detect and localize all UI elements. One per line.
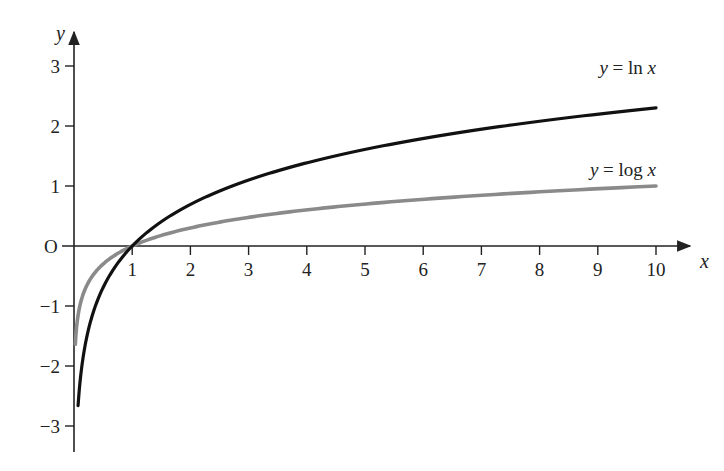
y-tick-label: −2 bbox=[40, 356, 60, 377]
x-tick-label: 3 bbox=[244, 259, 254, 280]
curve-ln-x bbox=[78, 108, 656, 406]
y-axis-label: y bbox=[54, 22, 65, 45]
y-tick-label: −1 bbox=[40, 296, 60, 317]
ln-curve-label: y = ln x bbox=[597, 57, 656, 78]
x-tick-label: 8 bbox=[535, 259, 545, 280]
x-tick-label: 7 bbox=[477, 259, 487, 280]
x-tick-label: 10 bbox=[647, 259, 666, 280]
y-tick-label: −3 bbox=[40, 416, 60, 437]
x-tick-label: 4 bbox=[302, 259, 312, 280]
y-tick-label: 2 bbox=[51, 116, 61, 137]
log-functions-chart: x y O 12345678910 321−1−2−3 y = ln x y =… bbox=[0, 0, 724, 471]
x-tick-label: 2 bbox=[186, 259, 196, 280]
log-curve-label: y = log x bbox=[588, 159, 657, 180]
curves bbox=[75, 108, 656, 406]
x-tick-label: 6 bbox=[418, 259, 428, 280]
x-tick-label: 1 bbox=[127, 259, 137, 280]
y-tick-label: 3 bbox=[51, 56, 61, 77]
x-tick-label: 5 bbox=[360, 259, 370, 280]
x-tick-label: 9 bbox=[593, 259, 603, 280]
x-axis-label: x bbox=[699, 250, 709, 272]
origin-label: O bbox=[44, 236, 58, 257]
x-ticks: 12345678910 bbox=[127, 246, 665, 280]
y-tick-label: 1 bbox=[51, 176, 61, 197]
